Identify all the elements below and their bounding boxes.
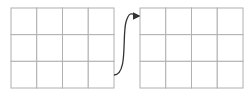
grid-cell xyxy=(63,61,89,88)
grid-cell xyxy=(88,35,114,62)
grid-cell xyxy=(217,8,243,35)
right-grid xyxy=(140,8,243,88)
grid-cell xyxy=(63,35,89,62)
left-grid xyxy=(11,8,114,88)
grid-cell xyxy=(140,61,166,88)
grid-cell xyxy=(192,8,218,35)
grid-cell xyxy=(217,35,243,62)
grid-cell xyxy=(37,35,63,62)
grid-cell xyxy=(166,35,192,62)
diagram-canvas xyxy=(0,0,248,101)
grid-cell xyxy=(11,8,37,35)
transition-arrow xyxy=(114,14,139,75)
grid-cell xyxy=(166,8,192,35)
grid-cell xyxy=(217,61,243,88)
grid-cell xyxy=(37,8,63,35)
grid-cell xyxy=(37,61,63,88)
grid-cell xyxy=(192,61,218,88)
grid-cell xyxy=(140,8,166,35)
grid-cell xyxy=(88,8,114,35)
grid-cell xyxy=(192,35,218,62)
grid-cell xyxy=(140,35,166,62)
grid-cell xyxy=(11,61,37,88)
grid-cell xyxy=(11,35,37,62)
grid-cell xyxy=(166,61,192,88)
grid-cell xyxy=(88,61,114,88)
grid-cell xyxy=(63,8,89,35)
